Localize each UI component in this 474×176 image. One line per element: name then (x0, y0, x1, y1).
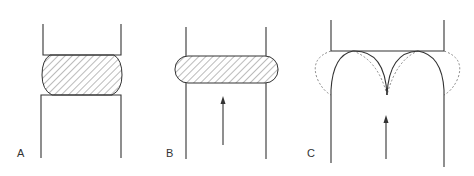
upper-block (43, 24, 121, 55)
left-arch (331, 51, 387, 163)
panel-a: A (17, 24, 122, 159)
right-arch (387, 51, 444, 167)
hatched-blob (42, 55, 122, 95)
arrow-up-icon (221, 96, 226, 104)
hatched-blob (175, 56, 278, 83)
panel-label-c: C (307, 147, 315, 159)
dotted-right-bulge (444, 51, 460, 95)
dotted-center (353, 51, 418, 95)
arrow-up-icon (384, 115, 389, 123)
panel-b: B (166, 27, 278, 159)
panel-c: C (307, 20, 460, 167)
upper-block (331, 20, 444, 51)
dotted-left-bulge (315, 51, 331, 95)
panel-label-a: A (17, 147, 25, 159)
diagram: A B C (0, 0, 474, 176)
lower-block (41, 95, 121, 158)
panel-label-b: B (166, 147, 173, 159)
